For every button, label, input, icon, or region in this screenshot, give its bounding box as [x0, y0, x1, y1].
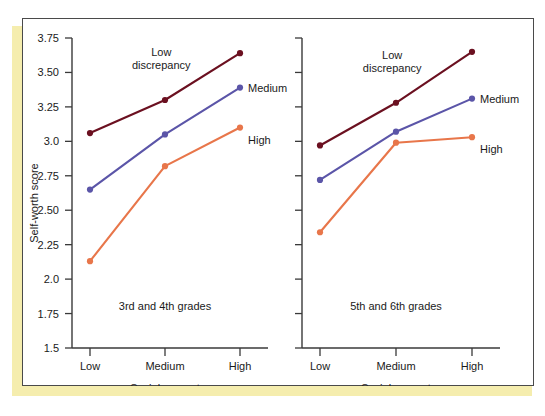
data-point [237, 50, 243, 56]
x-axis-title: Social support [130, 382, 200, 386]
series-label-low-discrepancy-line2: discrepancy [363, 62, 422, 74]
chart-panel-grades-3-4: 1.51.752.02.252.502.753.03.253.503.75Low… [38, 32, 288, 386]
y-tick-label: 1.5 [44, 342, 59, 354]
series-label-high: High [248, 134, 271, 146]
series-label-low-discrepancy-line1: Low [151, 46, 171, 58]
x-tick-label-high: High [461, 360, 484, 372]
figure-root: 1.51.752.02.252.502.753.03.253.503.75Low… [0, 0, 545, 416]
series-line-high [90, 128, 240, 262]
series-label-low-discrepancy-line2: discrepancy [132, 59, 191, 71]
data-point [393, 140, 399, 146]
panel-caption: 5th and 6th grades [350, 300, 442, 312]
data-point [469, 96, 475, 102]
series-label-high: High [480, 143, 503, 155]
y-tick-label: 3.75 [38, 32, 59, 44]
data-point [162, 163, 168, 169]
data-point [237, 85, 243, 91]
x-tick-label-medium: Medium [376, 360, 415, 372]
data-point [87, 258, 93, 264]
y-tick-label: 2.25 [38, 239, 59, 251]
y-tick-label: 3.0 [44, 135, 59, 147]
panel-caption: 3rd and 4th grades [119, 300, 212, 312]
x-axis-title: Social support [361, 382, 431, 386]
data-point [162, 131, 168, 137]
series-label-low-discrepancy-line1: Low [382, 49, 402, 61]
y-tick-label: 3.50 [38, 66, 59, 78]
y-tick-label: 2.50 [38, 204, 59, 216]
y-axis-title: Self-worth score [28, 163, 40, 242]
y-tick-label: 2.75 [38, 170, 59, 182]
data-point [317, 177, 323, 183]
data-point [87, 130, 93, 136]
series-label-medium: Medium [248, 82, 287, 94]
x-tick-label-low: Low [80, 360, 100, 372]
chart-canvas: 1.51.752.02.252.502.753.03.253.503.75Low… [22, 18, 534, 386]
data-point [317, 229, 323, 235]
y-tick-label: 3.25 [38, 101, 59, 113]
data-point [162, 97, 168, 103]
data-point [469, 134, 475, 140]
data-point [237, 124, 243, 130]
data-point [317, 142, 323, 148]
series-label-medium: Medium [480, 93, 519, 105]
data-point [393, 129, 399, 135]
data-point [469, 49, 475, 55]
data-point [393, 100, 399, 106]
y-tick-label: 2.0 [44, 273, 59, 285]
x-tick-label-high: High [229, 360, 252, 372]
chart-panel-grades-5-6: LowMediumHighSocial support5th and 6th g… [295, 38, 519, 386]
series-line-high [320, 137, 472, 232]
y-tick-label: 1.75 [38, 308, 59, 320]
x-tick-label-medium: Medium [145, 360, 184, 372]
data-point [87, 186, 93, 192]
x-tick-label-low: Low [310, 360, 330, 372]
